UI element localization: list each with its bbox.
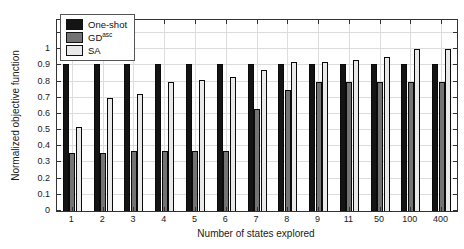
- bar-one-shot-x8: [278, 64, 284, 211]
- bar-one-shot-x2: [94, 64, 100, 211]
- y-tick-label: 0.5: [0, 124, 50, 134]
- bar-gdasc-x5: [192, 151, 198, 211]
- bar-sa-x400: [445, 49, 451, 211]
- bar-sa-x100: [414, 49, 420, 211]
- legend-row: SA: [66, 44, 127, 57]
- bar-gdasc-x100: [408, 82, 414, 211]
- x-tick-mark: [441, 20, 442, 24]
- bar-gdasc-x8: [285, 90, 291, 211]
- bar-sa-x11: [353, 60, 359, 211]
- y-tick-label: 0: [0, 205, 50, 215]
- y-tick-label: 0.8: [0, 76, 50, 86]
- y-tick-mark: [453, 64, 457, 65]
- legend-swatch-sa: [66, 45, 83, 56]
- bar-gdasc-x7: [254, 109, 260, 211]
- x-tick-mark: [410, 207, 411, 211]
- bar-sa-x5: [199, 80, 205, 211]
- y-tick-mark: [453, 97, 457, 98]
- legend-swatch-one-shot: [66, 19, 83, 30]
- y-tick-mark: [453, 210, 457, 211]
- bar-gdasc-x50: [377, 82, 383, 211]
- bar-one-shot-x50: [371, 64, 377, 211]
- x-tick-label: 8: [270, 214, 304, 224]
- bar-one-shot-x100: [401, 64, 407, 211]
- y-tick-mark: [57, 194, 61, 195]
- bar-sa-x2: [107, 98, 113, 211]
- bar-one-shot-x6: [217, 64, 223, 211]
- x-tick-mark: [257, 207, 258, 211]
- x-tick-mark: [133, 207, 134, 211]
- y-tick-label: 0.4: [0, 140, 50, 150]
- legend-row: GDasc: [66, 31, 127, 44]
- y-tick-mark: [57, 145, 61, 146]
- x-tick-mark: [349, 207, 350, 211]
- bar-gdasc-x3: [131, 151, 137, 211]
- x-tick-mark: [226, 207, 227, 211]
- y-tick-mark: [453, 194, 457, 195]
- y-tick-label: 1: [0, 43, 50, 53]
- y-tick-label: 0.9: [0, 59, 50, 69]
- bar-sa-x9: [322, 62, 328, 211]
- bar-gdasc-x1: [69, 153, 75, 211]
- y-tick-mark: [57, 113, 61, 114]
- legend-label: SA: [88, 45, 101, 56]
- x-tick-label: 3: [116, 214, 150, 224]
- bar-one-shot-x400: [432, 64, 438, 211]
- x-tick-label: 50: [362, 214, 396, 224]
- x-tick-mark: [195, 207, 196, 211]
- legend-label: One-shot: [88, 19, 127, 30]
- legend-swatch-gdasc: [66, 32, 83, 43]
- x-tick-mark: [318, 207, 319, 211]
- x-tick-mark: [103, 207, 104, 211]
- x-tick-label: 9: [301, 214, 335, 224]
- x-tick-mark: [195, 20, 196, 24]
- bar-gdasc-x11: [346, 82, 352, 211]
- y-tick-mark: [57, 129, 61, 130]
- bar-sa-x1: [76, 127, 82, 211]
- bar-chart-figure: Normalized objective function 00.10.20.3…: [0, 0, 464, 249]
- bar-one-shot-x4: [155, 64, 161, 211]
- y-tick-mark: [453, 113, 457, 114]
- bar-sa-x50: [384, 57, 390, 211]
- x-tick-mark: [226, 20, 227, 24]
- bar-sa-x3: [137, 94, 143, 211]
- bar-one-shot-x1: [63, 64, 69, 211]
- legend: One-shotGDascSA: [60, 14, 135, 61]
- x-tick-label: 5: [177, 214, 211, 224]
- x-tick-label: 6: [208, 214, 242, 224]
- x-tick-mark: [257, 20, 258, 24]
- bar-sa-x8: [291, 62, 297, 211]
- bar-sa-x4: [168, 82, 174, 211]
- x-tick-mark: [380, 207, 381, 211]
- bar-one-shot-x7: [248, 64, 254, 211]
- x-tick-mark: [349, 20, 350, 24]
- bar-gdasc-x6: [223, 151, 229, 211]
- x-tick-mark: [287, 20, 288, 24]
- y-tick-mark: [453, 129, 457, 130]
- bar-sa-x6: [230, 77, 236, 211]
- x-tick-label: 1: [54, 214, 88, 224]
- y-tick-mark: [57, 81, 61, 82]
- y-tick-mark: [453, 145, 457, 146]
- bar-gdasc-x9: [316, 82, 322, 211]
- x-tick-mark: [164, 207, 165, 211]
- x-tick-label: 400: [424, 214, 458, 224]
- x-tick-mark: [164, 20, 165, 24]
- legend-label-superscript: asc: [102, 31, 112, 38]
- x-tick-mark: [72, 207, 73, 211]
- x-tick-label: 2: [85, 214, 119, 224]
- bar-gdasc-x2: [100, 153, 106, 211]
- y-tick-mark: [453, 161, 457, 162]
- x-tick-label: 4: [147, 214, 181, 224]
- legend-label: GDasc: [88, 32, 112, 43]
- y-tick-label: 0.1: [0, 189, 50, 199]
- y-tick-label: 0.7: [0, 92, 50, 102]
- y-tick-mark: [57, 161, 61, 162]
- y-tick-label: 0.3: [0, 156, 50, 166]
- bar-gdasc-x4: [162, 151, 168, 211]
- bar-one-shot-x5: [186, 64, 192, 211]
- y-tick-mark: [453, 48, 457, 49]
- y-tick-label: 0.2: [0, 173, 50, 183]
- y-tick-mark: [57, 178, 61, 179]
- y-tick-label: 0.6: [0, 108, 50, 118]
